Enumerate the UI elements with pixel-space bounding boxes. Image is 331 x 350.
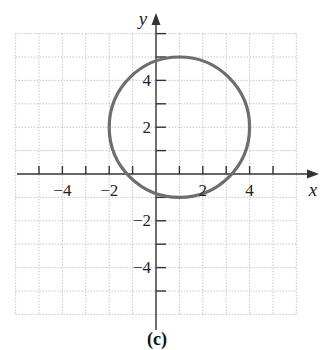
x-axis-label: x <box>308 179 318 200</box>
x-tick-label: 2 <box>199 181 208 200</box>
y-tick-label: −4 <box>133 258 152 277</box>
y-tick-label: 4 <box>143 71 152 90</box>
circle-graph: −4 −2 2 4 4 2 −2 −4 x y (c) <box>0 0 331 350</box>
figure-caption: (c) <box>147 329 167 350</box>
x-axis-arrow-icon <box>307 170 319 179</box>
y-axis-arrow-icon <box>152 13 161 25</box>
x-tick-label: 4 <box>245 181 254 200</box>
y-tick-label: −2 <box>133 211 151 230</box>
axes <box>17 20 312 330</box>
y-axis-label: y <box>137 8 148 29</box>
y-ticks <box>156 34 166 291</box>
x-tick-label: −4 <box>53 181 72 200</box>
y-tick-label: 2 <box>143 118 152 137</box>
x-tick-label: −2 <box>100 181 118 200</box>
